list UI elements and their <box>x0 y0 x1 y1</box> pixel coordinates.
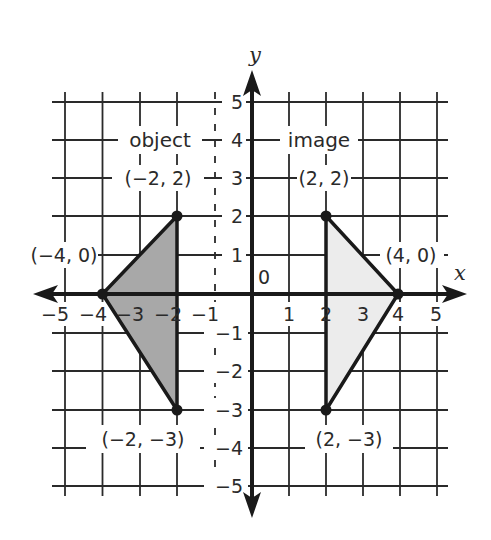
y-tick-label: 5 <box>231 91 243 113</box>
image-vertex-label-right: (4, 0) <box>385 244 436 266</box>
object-title: object <box>129 128 191 152</box>
y-axis-label: y <box>248 43 262 67</box>
vertex-image-top <box>321 211 332 222</box>
x-tick-label: −3 <box>116 303 144 325</box>
vertex-object-top <box>172 211 183 222</box>
x-axis-label: x <box>454 261 466 285</box>
y-tick-label: 4 <box>231 129 243 151</box>
x-tick-label: 1 <box>283 303 295 325</box>
vertex-image-bottom <box>321 405 332 416</box>
origin-label: 0 <box>258 266 270 288</box>
y-tick-label: −3 <box>215 399 243 421</box>
object-vertex-label-bottom: (−2, −3) <box>102 428 185 450</box>
object-vertex-label-top: (−2, 2) <box>124 167 191 189</box>
y-tick-label: −4 <box>215 437 243 459</box>
y-tick-label: −5 <box>215 475 243 497</box>
x-tick-label: 3 <box>357 303 369 325</box>
y-tick-label: −1 <box>215 322 243 344</box>
image-vertex-label-bottom: (2, −3) <box>315 428 382 450</box>
x-tick-label: −4 <box>79 303 107 325</box>
y-tick-label: −2 <box>215 360 243 382</box>
x-tick-label: 5 <box>430 303 442 325</box>
vertex-object-left <box>97 289 108 300</box>
x-tick-label: 2 <box>320 303 332 325</box>
object-vertex-label-left: (−4, 0) <box>30 244 97 266</box>
x-tick-label: −2 <box>154 303 182 325</box>
y-tick-label: 3 <box>231 167 243 189</box>
coordinate-plane-diagram: y x 0 −5 −4 −3 −2 −1 1 2 3 4 5 5 4 3 2 1… <box>0 0 491 540</box>
x-tick-label: 4 <box>392 303 404 325</box>
coordinate-plane-svg: y x 0 −5 −4 −3 −2 −1 1 2 3 4 5 5 4 3 2 1… <box>0 0 491 540</box>
x-tick-label: −5 <box>41 303 69 325</box>
y-tick-label: 1 <box>231 244 243 266</box>
vertex-object-bottom <box>172 405 183 416</box>
y-tick-label: 2 <box>231 205 243 227</box>
image-vertex-label-top: (2, 2) <box>298 167 349 189</box>
image-title: image <box>288 128 350 152</box>
vertex-image-right <box>393 289 404 300</box>
